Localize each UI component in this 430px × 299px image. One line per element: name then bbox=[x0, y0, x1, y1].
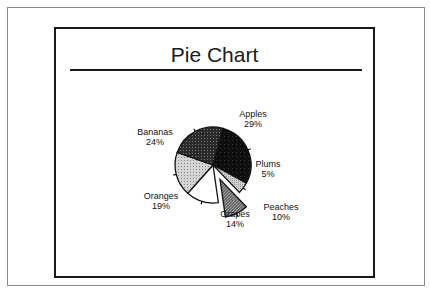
slice-label-peaches: Peaches bbox=[263, 202, 299, 212]
slice-label-grapes: Grapes bbox=[220, 209, 250, 219]
slice-label-oranges: Oranges bbox=[144, 191, 179, 201]
slice-tick bbox=[173, 174, 176, 175]
slice-label-plums: Plums bbox=[255, 159, 281, 169]
slice-percent-grapes: 14% bbox=[226, 219, 244, 229]
slice-tick bbox=[194, 129, 195, 132]
slice-tick bbox=[248, 149, 251, 150]
slice-percent-apples: 29% bbox=[244, 119, 262, 129]
slice-label-bananas: Bananas bbox=[137, 127, 173, 137]
slice-percent-oranges: 19% bbox=[152, 201, 170, 211]
slice-percent-peaches: 10% bbox=[272, 212, 290, 222]
slice-tick bbox=[201, 201, 202, 204]
slice-percent-plums: 5% bbox=[261, 169, 274, 179]
slice-tick bbox=[243, 188, 245, 190]
slice-label-apples: Apples bbox=[239, 109, 267, 119]
pie-chart: Apples29%Plums5%Peaches10%Grapes14%Orang… bbox=[0, 0, 430, 299]
slice-percent-bananas: 24% bbox=[146, 137, 164, 147]
